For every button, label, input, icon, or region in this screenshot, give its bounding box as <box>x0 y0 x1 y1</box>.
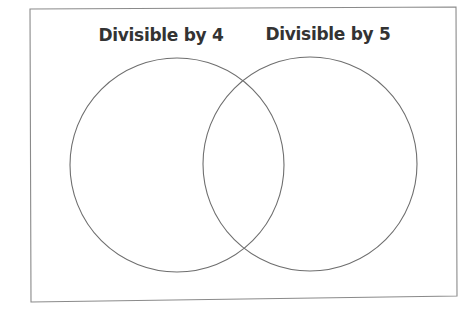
set-label-divisible-by-5: Divisible by 5 <box>265 24 390 44</box>
set-label-divisible-by-4: Divisible by 4 <box>98 25 224 45</box>
set-circle-divisible-by-4 <box>70 58 284 272</box>
venn-diagram: Divisible by 4 Divisible by 5 <box>0 0 476 317</box>
universal-set-frame <box>30 7 457 302</box>
set-circle-divisible-by-5 <box>203 57 417 271</box>
